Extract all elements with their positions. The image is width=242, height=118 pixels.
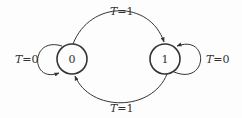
diagram-canvas: T=1 T=1 T=0 T=0 0 1 (0, 0, 242, 118)
edge-1-to-0-label: T=1 (110, 102, 134, 115)
self-loop-1-label: T=0 (206, 53, 230, 66)
state-diagram: T=1 T=1 T=0 T=0 0 1 (0, 0, 242, 118)
state-0: 0 (57, 44, 87, 74)
state-0-label: 0 (69, 53, 76, 66)
edge-0-to-1-label: T=1 (110, 5, 134, 18)
state-1-label: 1 (162, 53, 169, 66)
edge-1-to-0 (75, 74, 167, 103)
state-1: 1 (150, 44, 180, 74)
self-loop-0-label: T=0 (15, 53, 39, 66)
